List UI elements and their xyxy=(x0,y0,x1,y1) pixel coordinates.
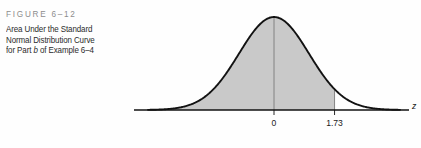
caption-line-3-prefix: for Part xyxy=(6,45,33,55)
normal-curve-svg: 0 1.73 z xyxy=(133,0,421,148)
axis-tick-label-z0: 0 xyxy=(272,118,277,128)
shaded-area-region xyxy=(148,17,335,110)
figure-caption-text: Area Under the Standard Normal Distribut… xyxy=(6,24,136,56)
caption-line-3: for Part b of Example 6–4 xyxy=(6,45,127,56)
figure-number-label: FIGURE 6–12 xyxy=(6,9,136,20)
figure-container: FIGURE 6–12 Area Under the Standard Norm… xyxy=(0,0,421,148)
axis-label-z: z xyxy=(411,101,417,111)
axis-tick-label-z173: 1.73 xyxy=(326,118,343,128)
caption-line-1: Area Under the Standard xyxy=(6,24,127,35)
caption-line-3-suffix: of Example 6–4 xyxy=(38,45,94,55)
normal-curve-chart: 0 1.73 z xyxy=(133,0,421,148)
caption-line-2: Normal Distribution Curve xyxy=(6,35,127,46)
figure-caption-block: FIGURE 6–12 Area Under the Standard Norm… xyxy=(6,9,136,56)
